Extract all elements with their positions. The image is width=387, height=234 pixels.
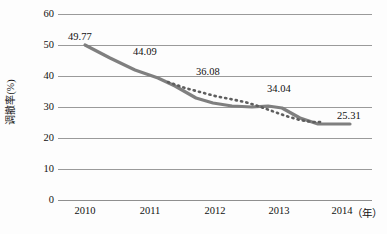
data-label-2010: 49.77 [68,31,92,42]
x-tick-2012: 2012 [193,205,237,216]
plot-area [0,0,387,234]
line-chart: 调撤率(%) 60 50 40 30 20 10 0 49.77 44.09 3… [0,0,387,234]
x-tick-2010: 2010 [63,205,107,216]
data-label-2012: 36.08 [196,66,220,77]
data-label-2013: 34.04 [267,83,291,94]
x-axis-unit: （年） [352,205,382,220]
series-solid-line [85,45,350,124]
x-tick-2011: 2011 [128,205,172,216]
data-label-2011: 44.09 [133,46,157,57]
x-tick-2013: 2013 [257,205,301,216]
data-label-2014: 25.31 [337,110,361,121]
